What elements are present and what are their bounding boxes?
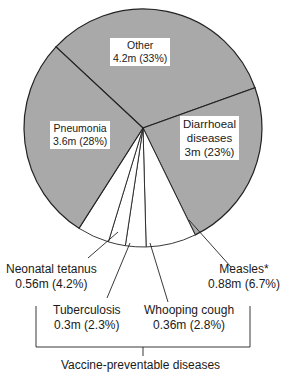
label-tuberculosis-value: 0.3m (2.3%): [53, 318, 121, 333]
label-whooping-name: Whooping cough: [144, 303, 234, 318]
label-tuberculosis-name: Tuberculosis: [53, 303, 121, 318]
label-diarrhoeal-name1: Diarrhoeal: [183, 117, 236, 131]
label-whooping: Whooping cough 0.36m (2.8%): [144, 303, 234, 333]
label-diarrhoeal: Diarrhoeal diseases 3m (23%): [180, 116, 239, 160]
label-measles-name: Measles*: [208, 262, 280, 277]
label-neonatal-name: Neonatal tetanus: [6, 262, 97, 277]
label-other: Other 4.2m (33%): [110, 38, 170, 66]
label-diarrhoeal-value: 3m (23%): [183, 145, 236, 159]
group-label: Vaccine-preventable diseases: [0, 358, 281, 372]
label-measles: Measles* 0.88m (6.7%): [208, 262, 280, 292]
label-pneumonia-name: Pneumonia: [53, 122, 107, 135]
label-neonatal: Neonatal tetanus 0.56m (4.2%): [6, 262, 97, 292]
label-whooping-value: 0.36m (2.8%): [144, 318, 234, 333]
label-measles-value: 0.88m (6.7%): [208, 277, 280, 292]
label-other-value: 4.2m (33%): [113, 52, 167, 65]
label-pneumonia-value: 3.6m (28%): [53, 135, 107, 148]
label-tuberculosis: Tuberculosis 0.3m (2.3%): [53, 303, 121, 333]
label-other-name: Other: [113, 39, 167, 52]
label-diarrhoeal-name2: diseases: [183, 131, 236, 145]
label-neonatal-value: 0.56m (4.2%): [6, 277, 97, 292]
label-pneumonia: Pneumonia 3.6m (28%): [50, 121, 110, 149]
